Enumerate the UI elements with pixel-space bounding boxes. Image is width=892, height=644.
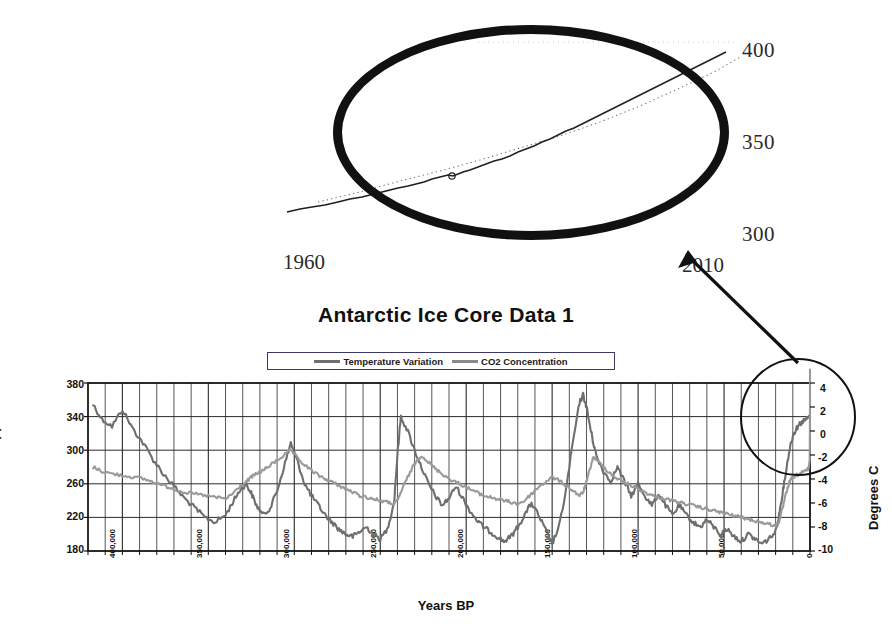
axis-tick-marks — [84, 383, 815, 555]
series-line-co2 — [93, 370, 810, 527]
plot-canvas — [0, 0, 892, 644]
figure-root: 400 350 300 1960 2010 Antarctic Ice Core… — [0, 0, 892, 644]
series-line-temperature — [93, 393, 810, 544]
chart-plot-area: CO2 ppmv Degrees C Years BP 380 340 300 … — [0, 0, 892, 644]
